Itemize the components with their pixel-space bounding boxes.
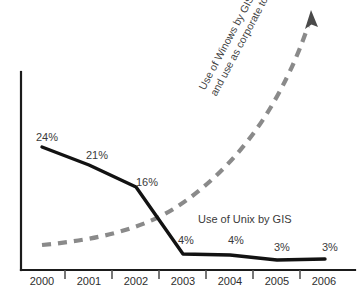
value-label-2006: 3%	[322, 241, 338, 253]
line-chart-plot	[0, 0, 364, 297]
x-tick-label-2001: 2001	[68, 275, 110, 287]
value-label-2002: 16%	[136, 176, 158, 188]
series-label-unix: Use of Unix by GIS	[198, 213, 292, 225]
value-label-2005: 3%	[274, 241, 290, 253]
x-tick-label-2003: 2003	[162, 275, 204, 287]
arrow-head-icon	[305, 10, 318, 29]
value-label-2003: 4%	[178, 234, 194, 246]
value-label-2001: 21%	[86, 149, 108, 161]
x-tick-label-2006: 2006	[303, 275, 345, 287]
chart-canvas: 24% 21% 16% 4% 4% 3% 3% Use of Unix by G…	[0, 0, 364, 297]
value-label-2004: 4%	[228, 234, 244, 246]
x-tick-label-2002: 2002	[115, 275, 157, 287]
x-tick-label-2000: 2000	[21, 275, 63, 287]
value-label-2000: 24%	[36, 131, 58, 143]
x-tick-label-2005: 2005	[256, 275, 298, 287]
x-tick-label-2004: 2004	[209, 275, 251, 287]
